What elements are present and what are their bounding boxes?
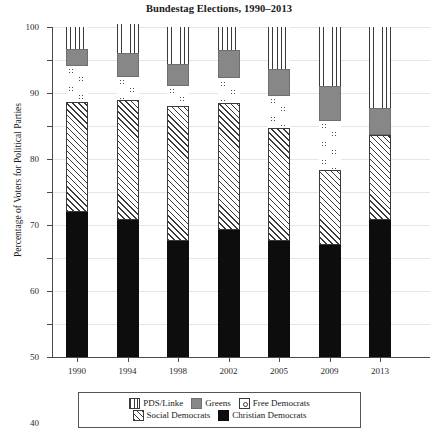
segment-greens[interactable] — [369, 108, 391, 136]
segment-christian-democrats[interactable] — [167, 241, 189, 357]
segment-social-democrats[interactable] — [268, 128, 290, 241]
y-axis-title: Percentage of Voters for Political Parti… — [13, 80, 23, 280]
segment-greens[interactable] — [167, 64, 189, 86]
segment-social-democrats[interactable] — [167, 106, 189, 241]
segment-greens[interactable] — [117, 53, 139, 77]
x-tick — [229, 357, 230, 362]
legend-item-free-democrats: Free Democrats — [239, 398, 310, 409]
segment-social-democrats[interactable] — [369, 135, 391, 220]
bar-group-2009[interactable] — [319, 27, 341, 357]
segment-free-democrats[interactable] — [66, 66, 88, 102]
segment-free-democrats[interactable] — [167, 86, 189, 106]
segment-social-democrats[interactable] — [319, 170, 341, 246]
spd-swatch-icon — [133, 410, 144, 421]
x-axis-line — [52, 357, 430, 358]
y-tick-label: 100 — [26, 22, 40, 32]
segment-christian-democrats[interactable] — [319, 245, 341, 357]
y-tick: 40 — [47, 225, 52, 226]
legend-label-pds-linke: PDS/Linke — [143, 399, 183, 408]
legend-row-1: PDS/Linke Greens Free Democrats — [83, 398, 356, 409]
pds-swatch-icon — [129, 398, 140, 409]
segment-social-democrats[interactable] — [117, 100, 139, 220]
segment-social-democrats[interactable] — [66, 102, 88, 213]
segment-christian-democrats[interactable] — [218, 230, 240, 357]
x-tick-label-1998: 1998 — [169, 366, 187, 376]
x-tick — [279, 357, 280, 362]
y-tick-label: 90 — [30, 88, 39, 98]
y-tick: 0 — [47, 357, 52, 358]
legend-label-free-democrats: Free Democrats — [253, 399, 310, 408]
bundestag-elections-chart: Bundestag Elections, 1990–2013 Percentag… — [0, 0, 438, 443]
y-tick: 10 — [47, 324, 52, 325]
x-tick-label-2009: 2009 — [321, 366, 339, 376]
cdu-swatch-icon — [218, 410, 229, 421]
legend-label-social-democrats: Social Democrats — [147, 411, 211, 420]
segment-pds-linke[interactable] — [117, 24, 139, 53]
y-tick: 50 — [47, 192, 52, 193]
segment-pds-linke[interactable] — [369, 27, 391, 108]
bar-group-1994[interactable] — [117, 27, 139, 357]
legend-label-greens: Greens — [205, 399, 231, 408]
segment-greens[interactable] — [268, 69, 290, 96]
legend-label-christian-democrats: Christian Democrats — [232, 411, 306, 420]
segment-pds-linke[interactable] — [319, 27, 341, 86]
x-tick — [178, 357, 179, 362]
y-tick-label: 40 — [30, 418, 39, 428]
segment-pds-linke[interactable] — [167, 27, 189, 64]
segment-social-democrats[interactable] — [218, 103, 240, 230]
x-tick — [128, 357, 129, 362]
fdp-swatch-icon — [239, 398, 250, 409]
segment-greens[interactable] — [66, 49, 88, 66]
segment-christian-democrats[interactable] — [66, 212, 88, 357]
segment-christian-democrats[interactable] — [369, 220, 391, 357]
y-tick: 100 — [47, 27, 52, 28]
x-tick-label-1994: 1994 — [119, 366, 137, 376]
segment-greens[interactable] — [319, 86, 341, 121]
legend-item-social-democrats: Social Democrats — [133, 410, 211, 421]
bar-group-1998[interactable] — [167, 27, 189, 357]
y-tick: 60 — [47, 159, 52, 160]
y-tick: 80 — [47, 93, 52, 94]
segment-pds-linke[interactable] — [268, 27, 290, 69]
x-tick — [380, 357, 381, 362]
segment-free-democrats[interactable] — [117, 77, 139, 100]
segment-christian-democrats[interactable] — [117, 220, 139, 357]
x-tick-label-2005: 2005 — [270, 366, 288, 376]
chart-legend: PDS/Linke Greens Free Democrats Social D… — [78, 392, 361, 428]
x-tick-label-2013: 2013 — [371, 366, 389, 376]
plot-area: 0102030405060708090100 19901994199820022… — [52, 27, 430, 357]
greens-swatch-icon — [191, 398, 202, 409]
segment-free-democrats[interactable] — [218, 79, 240, 103]
y-tick-label: 50 — [30, 352, 39, 362]
y-tick-label: 80 — [30, 154, 39, 164]
y-tick: 90 — [47, 60, 52, 61]
bar-group-2005[interactable] — [268, 27, 290, 357]
segment-greens[interactable] — [218, 50, 240, 78]
x-tick-label-1990: 1990 — [68, 366, 86, 376]
legend-item-greens: Greens — [191, 398, 231, 409]
y-tick: 20 — [47, 291, 52, 292]
y-tick-label: 60 — [30, 286, 39, 296]
bar-group-2002[interactable] — [218, 27, 240, 357]
segment-pds-linke[interactable] — [66, 27, 88, 49]
segment-pds-linke[interactable] — [218, 27, 240, 50]
segment-christian-democrats[interactable] — [268, 241, 290, 357]
segment-free-democrats[interactable] — [319, 121, 341, 169]
y-tick-label: 70 — [30, 220, 39, 230]
legend-row-2: Social Democrats Christian Democrats — [83, 410, 356, 421]
y-tick: 70 — [47, 126, 52, 127]
legend-item-christian-democrats: Christian Democrats — [218, 410, 306, 421]
legend-item-pds-linke: PDS/Linke — [129, 398, 183, 409]
y-tick: 30 — [47, 258, 52, 259]
x-tick — [330, 357, 331, 362]
bar-group-2013[interactable] — [369, 27, 391, 357]
chart-title: Bundestag Elections, 1990–2013 — [0, 3, 438, 14]
x-tick-label-2002: 2002 — [220, 366, 238, 376]
bar-group-1990[interactable] — [66, 27, 88, 357]
segment-free-democrats[interactable] — [268, 96, 290, 128]
x-tick — [77, 357, 78, 362]
